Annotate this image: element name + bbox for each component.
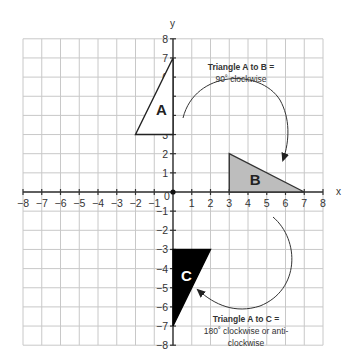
origin-point <box>170 189 175 194</box>
x-tick-label: 3 <box>226 197 232 209</box>
y-tick-label: −1 <box>156 205 168 217</box>
y-tick-label: −3 <box>156 243 168 255</box>
y-tick-label: −5 <box>156 282 168 294</box>
x-tick-label: 2 <box>208 197 214 209</box>
annotation-a-to-c-line2: clockwise <box>228 338 265 348</box>
triangle-c-label: C <box>181 267 192 284</box>
x-tick-label: −7 <box>36 197 48 209</box>
y-tick-label: −8 <box>156 339 168 351</box>
y-tick-label: −7 <box>156 320 168 332</box>
y-tick-label: 7 <box>162 52 168 64</box>
x-tick-label: 8 <box>320 197 326 209</box>
triangle-b-label: B <box>250 171 261 188</box>
rotation-arrows <box>183 79 292 309</box>
triangle-a-label: A <box>156 101 167 118</box>
plot-svg: −8−7−6−5−4−3−2−11234567887654321−1−2−3−4… <box>0 0 356 364</box>
annotation-a-to-c-line1: 180˚ clockwise or anti- <box>204 326 289 336</box>
origin-label: 0 <box>164 190 170 202</box>
x-tick-label: 6 <box>283 197 289 209</box>
x-tick-label: 4 <box>245 197 251 209</box>
annotation-a-to-c-title: Triangle A to C = <box>213 314 280 324</box>
y-tick-label: −4 <box>156 263 168 275</box>
y-tick-label: 8 <box>162 33 168 45</box>
x-tick-label: −3 <box>111 197 123 209</box>
y-tick-label: −2 <box>156 224 168 236</box>
x-tick-label: −6 <box>55 197 67 209</box>
coordinate-plane-diagram: −8−7−6−5−4−3−2−11234567887654321−1−2−3−4… <box>0 0 356 364</box>
annotation-a-to-b-line1: 90˚ clockwise <box>215 74 266 84</box>
arrow-a-to-b <box>183 79 288 160</box>
y-tick-label: 2 <box>162 148 168 160</box>
annotation-a-to-b-title: Triangle A to B = <box>208 62 275 72</box>
y-axis-label: y <box>170 18 175 29</box>
x-tick-label: −4 <box>92 197 104 209</box>
x-tick-label: −2 <box>130 197 142 209</box>
y-tick-label: 1 <box>162 167 168 179</box>
x-tick-label: 1 <box>189 197 195 209</box>
x-axis-label: x <box>336 186 341 197</box>
y-tick-label: −6 <box>156 301 168 313</box>
x-tick-label: −5 <box>73 197 85 209</box>
x-tick-label: 7 <box>301 197 307 209</box>
x-tick-label: −8 <box>17 197 29 209</box>
x-tick-label: 5 <box>264 197 270 209</box>
